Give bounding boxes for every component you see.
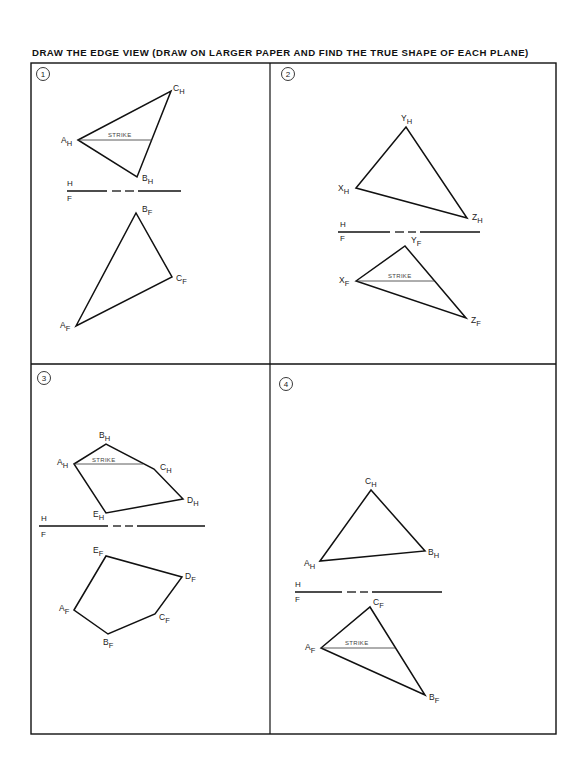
problem-3: 3 STRIKE BH AH CH DH EH H F EF DF AF CF … [38, 372, 206, 651]
front-view-triangle [321, 607, 425, 695]
point-label: CH [365, 476, 377, 489]
point-label: ZF [471, 315, 481, 328]
point-label: AF [59, 603, 70, 616]
point-label: BH [99, 430, 110, 443]
problem-number: 4 [284, 380, 289, 389]
point-label: BH [142, 173, 153, 186]
fold-label-h: H [67, 179, 73, 188]
strike-label: STRIKE [345, 640, 368, 646]
strike-label: STRIKE [108, 132, 131, 138]
point-label: CF [159, 612, 170, 625]
point-label: CF [373, 597, 384, 610]
strike-label: STRIKE [92, 457, 115, 463]
point-label: BF [103, 637, 114, 650]
worksheet-drawing: 1 STRIKE AH CH BH H F BF CF AF 2 YH XH Z… [0, 0, 582, 766]
point-label: BH [428, 547, 439, 560]
point-label: ZH [472, 212, 483, 225]
front-view-triangle [76, 213, 172, 326]
point-label: YF [411, 235, 422, 248]
top-view-polygon [74, 444, 183, 513]
problem-4: 4 CH AH BH H F STRIKE CF AF BF [280, 378, 443, 706]
point-label: XH [338, 183, 349, 196]
fold-label-h: H [41, 514, 47, 523]
point-label: BF [142, 204, 153, 217]
point-label: CH [173, 83, 185, 96]
fold-label-f: F [340, 234, 345, 243]
point-label: XF [339, 275, 350, 288]
point-label: BF [429, 692, 440, 705]
point-label: AH [61, 135, 72, 148]
point-label: CH [160, 462, 172, 475]
point-label: CF [176, 273, 187, 286]
problem-number: 1 [41, 70, 46, 79]
top-view-triangle [356, 127, 467, 218]
problem-1: 1 STRIKE AH CH BH H F BF CF AF [37, 68, 188, 334]
problem-number: 3 [42, 374, 47, 383]
fold-label-h: H [340, 220, 346, 229]
front-view-triangle [356, 246, 466, 318]
point-label: AF [60, 320, 71, 333]
problem-number: 2 [286, 70, 291, 79]
point-label: EH [93, 509, 104, 522]
strike-label: STRIKE [388, 273, 411, 279]
problem-2: 2 YH XH ZH H F STRIKE YF XF ZF [282, 68, 483, 329]
point-label: DF [185, 571, 196, 584]
point-label: EF [93, 545, 104, 558]
fold-label-h: H [295, 580, 301, 589]
point-label: AF [305, 642, 316, 655]
fold-label-f: F [295, 595, 300, 604]
fold-label-f: F [41, 530, 46, 539]
point-label: AH [57, 457, 68, 470]
point-label: DH [187, 495, 199, 508]
fold-label-f: F [67, 194, 72, 203]
point-label: YH [401, 113, 412, 126]
point-label: AH [304, 558, 315, 571]
top-view-triangle [320, 490, 425, 561]
